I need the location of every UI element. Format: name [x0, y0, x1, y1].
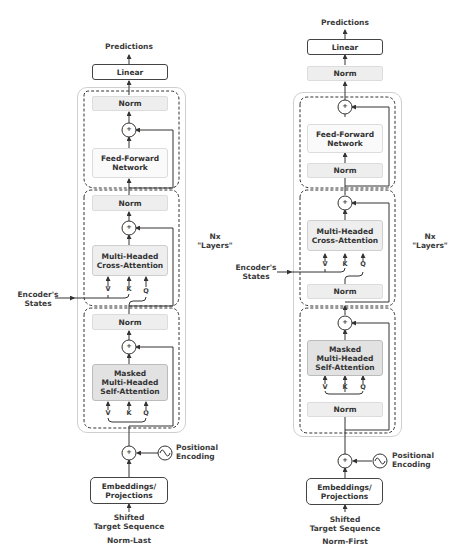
- left-self-k-label: K: [123, 409, 135, 418]
- right-predictions-label: Predictions: [305, 18, 385, 27]
- left-norm-mid-box: Norm: [92, 195, 168, 211]
- add-icon: +: [122, 223, 136, 232]
- norm-label: Norm: [119, 199, 142, 208]
- right-norm-cross-box: Norm: [307, 284, 383, 299]
- norm-label: Norm: [334, 166, 357, 175]
- right-linear-box: Linear: [307, 39, 383, 55]
- input-line2: Target Sequence: [300, 524, 390, 533]
- add-icon: +: [122, 342, 136, 351]
- ffn-label-line1: Feed-Forward: [101, 154, 159, 163]
- ffn-label-line2: Network: [327, 139, 363, 148]
- input-line1: Shifted: [84, 513, 174, 522]
- input-line1: Shifted: [300, 515, 390, 524]
- pos-enc-line2: Encoding: [176, 452, 226, 461]
- add-icon: +: [122, 448, 136, 457]
- norm-label: Norm: [334, 287, 357, 296]
- embeddings-line1: Embeddings/: [317, 483, 372, 492]
- right-cross-v-label: V: [319, 260, 331, 269]
- norm-label: Norm: [334, 69, 357, 78]
- encoder-states-line1: Encoder's: [16, 290, 60, 299]
- add-icon: +: [338, 456, 352, 465]
- right-title-norm-first: Norm-First: [305, 537, 385, 546]
- cross-attention-line1: Multi-Headed: [317, 227, 374, 236]
- layers-text: "Layers": [190, 241, 240, 250]
- right-cross-k-label: K: [339, 260, 351, 269]
- norm-label: Norm: [119, 99, 142, 108]
- masked-line1: Masked: [114, 369, 146, 378]
- layers-text: "Layers": [405, 241, 455, 250]
- right-norm-ffn-box: Norm: [307, 163, 383, 178]
- add-icon: +: [338, 198, 352, 207]
- right-ffn-box: Feed-Forward Network: [307, 124, 383, 153]
- masked-line1: Masked: [329, 345, 361, 354]
- left-cross-k-label: K: [123, 285, 135, 294]
- linear-label: Linear: [332, 43, 359, 52]
- pos-enc-line2: Encoding: [392, 460, 442, 469]
- masked-line2: Multi-Headed: [102, 378, 159, 387]
- right-self-q-label: Q: [357, 383, 369, 392]
- cross-attention-line1: Multi-Headed: [102, 252, 159, 261]
- left-norm-low-box: Norm: [92, 314, 168, 330]
- add-icon: +: [338, 102, 352, 111]
- left-cross-attention-box: Multi-Headed Cross-Attention: [92, 245, 168, 276]
- left-title-norm-last: Norm-Last: [89, 536, 169, 545]
- ffn-label-line2: Network: [112, 163, 148, 172]
- right-encoder-states-label: Encoder's States: [234, 263, 278, 281]
- right-input-label: Shifted Target Sequence: [300, 515, 390, 533]
- left-linear-box: Linear: [92, 64, 168, 80]
- input-line2: Target Sequence: [84, 522, 174, 531]
- embeddings-line2: Projections: [321, 492, 369, 501]
- right-norm-self-box: Norm: [307, 402, 383, 417]
- embeddings-line1: Embeddings/: [102, 482, 157, 491]
- left-cross-q-label: Q: [140, 287, 152, 296]
- encoder-states-line2: States: [16, 299, 60, 308]
- layers-nx: Nx: [405, 232, 455, 241]
- right-masked-attention-box: Masked Multi-Headed Self-Attention: [307, 340, 383, 376]
- left-predictions-label: Predictions: [89, 42, 169, 51]
- norm-label: Norm: [334, 405, 357, 414]
- left-self-v-label: V: [102, 409, 114, 418]
- ffn-label-line1: Feed-Forward: [316, 130, 374, 139]
- left-positional-encoding-label: Positional Encoding: [176, 443, 226, 461]
- left-encoder-states-label: Encoder's States: [16, 290, 60, 308]
- connector-lines: [0, 0, 461, 560]
- left-self-q-label: Q: [140, 409, 152, 418]
- right-embeddings-box: Embeddings/ Projections: [306, 478, 383, 505]
- cross-attention-line2: Cross-Attention: [312, 236, 378, 245]
- cross-attention-line2: Cross-Attention: [97, 261, 163, 270]
- embeddings-line2: Projections: [105, 491, 153, 500]
- add-icon: +: [122, 125, 136, 134]
- norm-label: Norm: [119, 318, 142, 327]
- pos-enc-line1: Positional: [392, 451, 442, 460]
- left-masked-attention-box: Masked Multi-Headed Self-Attention: [92, 364, 168, 401]
- masked-line3: Self-Attention: [100, 387, 159, 396]
- encoder-states-line1: Encoder's: [234, 263, 278, 272]
- left-ffn-box: Feed-Forward Network: [92, 148, 168, 178]
- left-input-label: Shifted Target Sequence: [84, 513, 174, 531]
- layers-nx: Nx: [190, 232, 240, 241]
- left-norm-top-box: Norm: [92, 96, 168, 111]
- right-norm-final-box: Norm: [307, 66, 383, 81]
- right-self-k-label: K: [339, 383, 351, 392]
- add-icon: +: [338, 318, 352, 327]
- left-cross-v-label: V: [102, 285, 114, 294]
- masked-line3: Self-Attention: [315, 363, 374, 372]
- right-layers-label: Nx "Layers": [405, 232, 455, 250]
- pos-enc-line1: Positional: [176, 443, 226, 452]
- left-embeddings-box: Embeddings/ Projections: [90, 477, 168, 504]
- masked-line2: Multi-Headed: [317, 354, 374, 363]
- right-cross-attention-box: Multi-Headed Cross-Attention: [307, 220, 383, 251]
- right-positional-encoding-label: Positional Encoding: [392, 451, 442, 469]
- encoder-states-line2: States: [234, 272, 278, 281]
- right-self-v-label: V: [319, 383, 331, 392]
- left-layers-label: Nx "Layers": [190, 232, 240, 250]
- right-cross-q-label: Q: [357, 260, 369, 269]
- linear-label: Linear: [117, 68, 144, 77]
